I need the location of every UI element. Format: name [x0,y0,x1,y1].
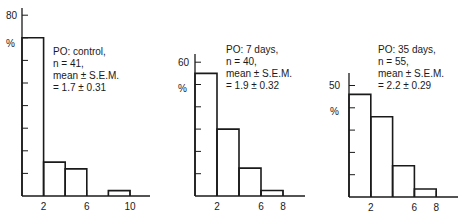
histogram-bar [239,168,261,196]
panel-7-days: 26860%PO: 7 days,n = 40,mean ± S.E.M.= 1… [178,44,305,212]
stats-annotation: PO: control,n = 41,mean ± S.E.M.= 1.7 ± … [53,46,119,93]
histogram-bar [349,94,371,197]
panel-35-days: 26850%PO: 35 days,n = 55,mean ± S.E.M.= … [329,44,458,213]
y-axis-label: % [178,83,187,94]
histogram-bar [393,166,415,197]
x-tick-label: 2 [368,202,374,213]
x-tick-label: 6 [84,201,90,212]
x-tick-label: 2 [214,201,220,212]
histogram-bar [414,189,436,197]
y-tick-label: 80 [6,10,18,21]
histogram-bar [371,117,393,197]
x-tick-label: 8 [433,202,439,213]
stats-annotation: PO: 7 days,n = 40,mean ± S.E.M.= 1.9 ± 0… [226,44,292,91]
x-tick-label: 6 [258,201,264,212]
x-tick-label: 6 [412,202,418,213]
x-tick-label: 2 [41,201,47,212]
y-tick-label: 50 [329,80,341,91]
histogram-bar [108,191,130,196]
y-axis-label: % [6,38,15,49]
histogram-bar [44,162,66,196]
y-tick-label: 60 [178,57,190,68]
histogram-bar [22,38,44,196]
histogram-bar [217,129,239,196]
x-tick-label: 10 [124,201,136,212]
panel-control: 261080%PO: control,n = 41,mean ± S.E.M.=… [6,8,150,212]
histogram-bar [65,169,87,196]
x-tick-label: 8 [280,201,286,212]
histogram-bar [261,190,283,196]
histogram-bar [195,73,217,196]
y-axis-label: % [330,106,339,117]
histogram-figure: 261080%PO: control,n = 41,mean ± S.E.M.=… [0,0,469,217]
stats-annotation: PO: 35 days,n = 55,mean ± S.E.M.= 2.2 ± … [378,44,444,91]
